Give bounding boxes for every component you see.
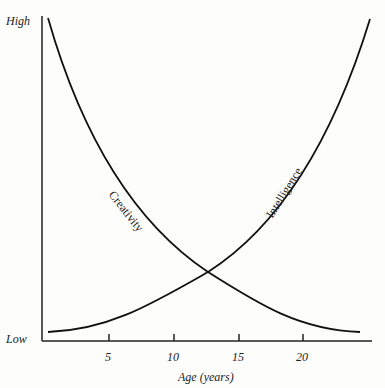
y-label-high: High — [6, 14, 30, 29]
intelligence-curve — [48, 19, 370, 332]
chart: High Low 5 10 15 20 Age (years) Creativi… — [0, 0, 385, 388]
x-tick-10: 10 — [167, 350, 179, 365]
creativity-curve — [48, 18, 360, 332]
x-axis-title: Age (years) — [178, 370, 234, 385]
y-label-low: Low — [6, 332, 27, 347]
x-ticks — [109, 334, 303, 341]
x-tick-20: 20 — [296, 350, 308, 365]
x-tick-5: 5 — [105, 350, 111, 365]
x-tick-15: 15 — [232, 350, 244, 365]
plot-area — [0, 0, 385, 388]
